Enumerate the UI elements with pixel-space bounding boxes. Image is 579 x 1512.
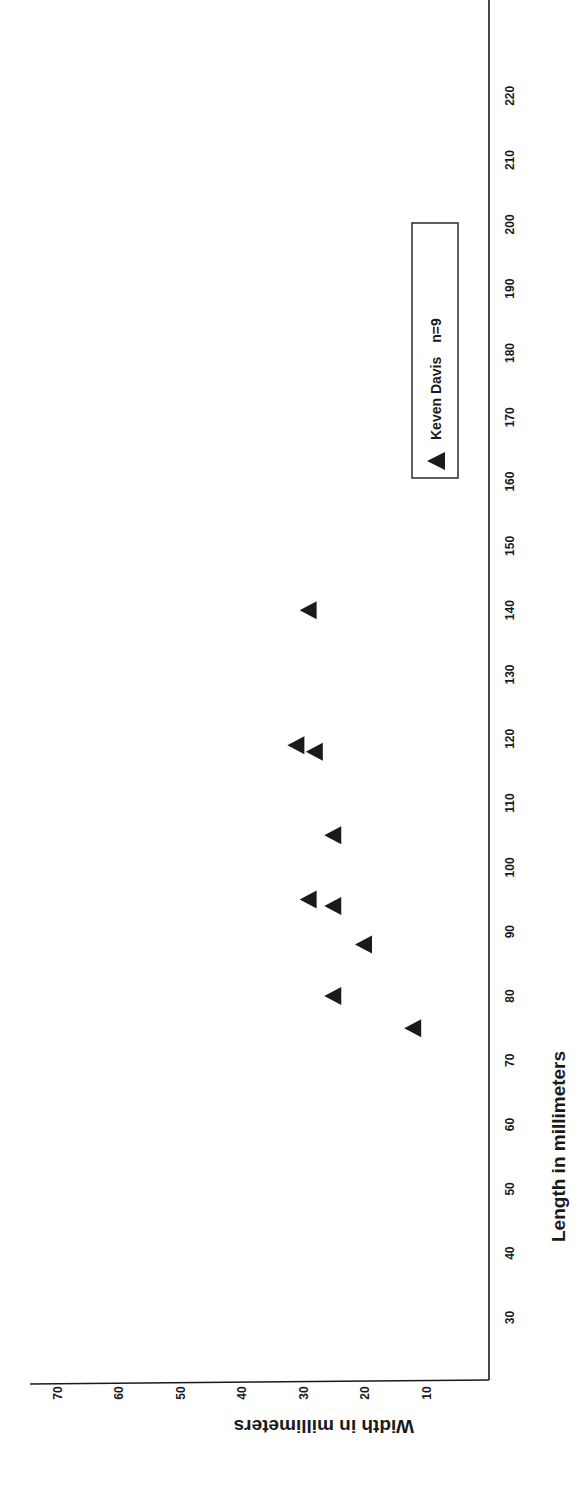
data-point-triangle-icon: [355, 936, 372, 954]
x-tick-label: 200: [503, 214, 517, 234]
data-point-triangle-icon: [300, 601, 317, 619]
data-point-triangle-icon: [404, 1019, 421, 1037]
x-tick-label: 110: [503, 793, 517, 813]
y-tick-label: 10: [420, 1386, 434, 1400]
x-tick-label: 100: [503, 857, 517, 877]
y-tick-label: 40: [235, 1386, 249, 1400]
x-axis-tick-labels: 3040506070809010011012013014015016017018…: [503, 85, 517, 1324]
y-axis-tick-labels: 10203040506070: [51, 1386, 434, 1400]
scatter-chart: 3040506070809010011012013014015016017018…: [0, 0, 579, 1512]
legend-count: n=9: [428, 318, 444, 343]
legend: Keven Davis n=9: [412, 223, 458, 478]
legend-series-name: Keven Davis: [428, 357, 444, 440]
x-tick-label: 170: [503, 407, 517, 427]
data-point-triangle-icon: [300, 891, 317, 909]
y-axis-title: Width in millimeters: [234, 1416, 414, 1437]
x-tick-label: 190: [503, 278, 517, 298]
x-tick-label: 180: [503, 343, 517, 363]
x-tick-label: 50: [503, 1182, 517, 1196]
data-point-triangle-icon: [324, 987, 341, 1005]
x-tick-label: 120: [503, 728, 517, 748]
x-tick-label: 140: [503, 600, 517, 620]
x-tick-label: 210: [503, 150, 517, 170]
x-tick-label: 70: [503, 1053, 517, 1067]
y-tick-label: 20: [358, 1386, 372, 1400]
axes: [30, 0, 489, 1384]
x-axis-title: Length in millimeters: [548, 1051, 569, 1242]
x-tick-label: 130: [503, 664, 517, 684]
data-point-triangle-icon: [324, 826, 341, 844]
legend-label: Keven Davis n=9: [428, 318, 444, 440]
y-tick-label: 50: [174, 1386, 188, 1400]
x-tick-label: 40: [503, 1246, 517, 1260]
x-tick-label: 150: [503, 536, 517, 556]
data-point-triangle-icon: [324, 897, 341, 915]
x-tick-label: 160: [503, 471, 517, 491]
data-point-triangle-icon: [287, 736, 304, 754]
x-tick-label: 60: [503, 1118, 517, 1132]
x-tick-label: 80: [503, 989, 517, 1003]
x-tick-label: 30: [503, 1311, 517, 1325]
y-tick-label: 70: [51, 1386, 65, 1400]
y-tick-label: 60: [112, 1386, 126, 1400]
x-tick-label: 220: [503, 85, 517, 105]
series-keven-davis: [287, 601, 421, 1037]
data-point-triangle-icon: [306, 743, 323, 761]
y-tick-label: 30: [297, 1386, 311, 1400]
x-tick-label: 90: [503, 925, 517, 939]
y-axis-line: [30, 1380, 489, 1384]
